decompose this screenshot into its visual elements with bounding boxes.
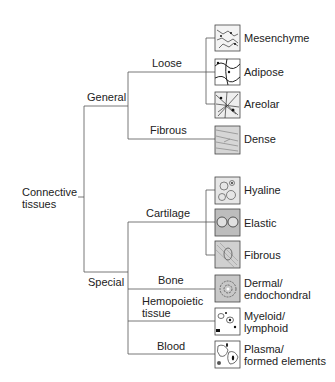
leaf-label-myeloid-2: lymphoid xyxy=(244,322,288,334)
areolar-tissue-icon xyxy=(215,92,240,118)
elastic-cartilage-icon xyxy=(215,209,240,236)
root-label-line1: Connective xyxy=(22,186,77,198)
subgroup-label-loose: Loose xyxy=(152,57,182,69)
subgroup-label-blood: Blood xyxy=(157,340,185,352)
subgroup-label-fibrous: Fibrous xyxy=(150,124,187,136)
branch-label-special: Special xyxy=(88,276,124,288)
leaf-label-dermal-2: endochondral xyxy=(244,289,311,301)
leaf-label-myeloid-1: Myeloid/ xyxy=(244,310,285,322)
leaf-label-dense: Dense xyxy=(244,133,276,145)
leaf-label-elastic: Elastic xyxy=(244,217,276,229)
leaf-label-dermal-1: Dermal/ xyxy=(244,277,283,289)
leaf-label-plasma-1: Plasma/ xyxy=(244,343,284,355)
bone-tissue-icon xyxy=(215,275,240,302)
leaf-label-mesenchyme: Mesenchyme xyxy=(244,32,309,44)
blood-tissue-icon xyxy=(215,341,240,368)
fibrous-cartilage-icon xyxy=(215,241,240,268)
dense-tissue-icon xyxy=(215,126,240,154)
subgroup-label-hemopoietic-1: Hemopoietic xyxy=(142,295,203,307)
leaf-label-fibrous: Fibrous xyxy=(244,249,281,261)
hyaline-cartilage-icon xyxy=(215,177,240,204)
leaf-label-plasma-2: formed elements xyxy=(244,355,326,367)
subgroup-label-hemopoietic-2: tissue xyxy=(142,307,171,319)
root-label-line2: tissues xyxy=(22,198,56,210)
subgroup-label-bone: Bone xyxy=(158,274,184,286)
subgroup-label-cartilage: Cartilage xyxy=(146,207,190,219)
leaf-label-areolar: Areolar xyxy=(244,98,279,110)
leaf-label-hyaline: Hyaline xyxy=(244,184,281,196)
connective-tissue-diagram: Connective tissues General Special Loose… xyxy=(0,0,335,382)
hemopoietic-tissue-icon xyxy=(215,308,240,335)
adipose-tissue-icon xyxy=(215,59,240,85)
mesenchyme-tissue-icon xyxy=(215,25,240,51)
branch-label-general: General xyxy=(87,91,126,103)
leaf-label-adipose: Adipose xyxy=(244,66,284,78)
